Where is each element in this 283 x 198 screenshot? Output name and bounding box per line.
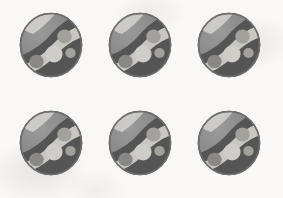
marble-item[interactable]	[197, 12, 261, 78]
marble-item[interactable]	[108, 12, 172, 78]
marble-item[interactable]	[19, 12, 83, 78]
illustration-canvas	[0, 0, 283, 198]
marble-graphic	[108, 12, 172, 78]
marble-graphic	[19, 12, 83, 78]
marble-item[interactable]	[19, 110, 83, 176]
marble-graphic	[108, 110, 172, 176]
marble-graphic	[197, 12, 261, 78]
marble-item[interactable]	[197, 110, 261, 176]
marble-graphic	[19, 110, 83, 176]
marble-item[interactable]	[108, 110, 172, 176]
marble-grid	[0, 0, 283, 198]
marble-graphic	[197, 110, 261, 176]
